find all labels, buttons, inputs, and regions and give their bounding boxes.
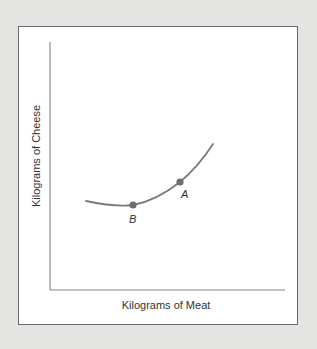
x-axis-label: Kilograms of Meat	[122, 299, 211, 311]
point-a-marker	[176, 178, 183, 185]
point-b-marker	[129, 201, 136, 208]
y-axis-label: Kilograms of Cheese	[30, 105, 42, 207]
chart-svg: A B Kilograms of Cheese Kilograms of Mea…	[0, 0, 317, 349]
indifference-curve	[86, 144, 213, 206]
point-b-label: B	[129, 213, 136, 225]
point-a-label: A	[180, 188, 188, 200]
